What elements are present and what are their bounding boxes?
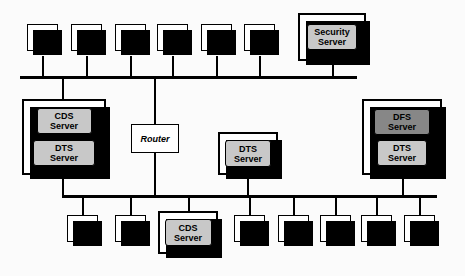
dts-server-label-line1: DTS: [55, 143, 73, 153]
cds-server-label-line1: CDS: [178, 223, 197, 233]
workstation-label: WS: [209, 33, 224, 43]
cds-server-label-line2: Server: [174, 233, 202, 243]
workstation-label: WS: [252, 33, 267, 43]
workstation-top-5[interactable]: WS: [201, 24, 232, 51]
dts-server-label-line2: Server: [234, 154, 262, 164]
drop-bottom-ws-5: [335, 197, 337, 215]
drop-top-ws-5: [216, 56, 218, 77]
workstation-label: WS: [369, 224, 384, 234]
workstation-bottom-7[interactable]: WS: [404, 215, 435, 242]
dfs-server-label-line2: Server: [388, 122, 416, 132]
cds-server-chassis-bottom[interactable]: CDS Server: [158, 211, 218, 254]
dts-server-chassis-middle[interactable]: DTS Server: [218, 132, 278, 175]
dfs-dts-server-chassis[interactable]: DFS Server DTS Server: [362, 99, 442, 175]
workstation-top-2[interactable]: WS: [71, 24, 102, 51]
workstation-top-4[interactable]: WS: [157, 24, 188, 51]
security-server-plate: Security Server: [307, 24, 357, 50]
dfs-server-label-line1: DFS: [393, 112, 411, 122]
cds-server-plate: CDS Server: [165, 219, 212, 246]
drop-bottom-ws-7: [419, 197, 421, 215]
dts-server-label-line1: DTS: [393, 143, 411, 153]
workstation-label: WS: [79, 33, 94, 43]
bottom-bus-line: [62, 195, 437, 198]
workstation-top-6[interactable]: WS: [244, 24, 275, 51]
drop-bottom-ws-1: [82, 197, 84, 215]
workstation-label: WS: [242, 224, 257, 234]
security-server-label-line2: Server: [318, 37, 346, 47]
workstation-label: WS: [123, 224, 138, 234]
drop-top-ws-2: [86, 56, 88, 77]
drop-top-ws-6: [259, 56, 261, 77]
workstation-bottom-1[interactable]: WS: [67, 215, 98, 242]
dts-server-plate: DTS Server: [225, 140, 271, 167]
security-server-chassis[interactable]: Security Server: [298, 13, 366, 61]
drop-bottom-ws-3: [249, 197, 251, 215]
workstation-top-3[interactable]: WS: [115, 24, 146, 51]
dfs-server-plate: DFS Server: [374, 109, 430, 135]
workstation-top-1[interactable]: WS: [27, 24, 58, 51]
workstation-label: WS: [286, 224, 301, 234]
network-diagram: WS WS WS WS WS WS Security Server CDS Se…: [0, 0, 465, 276]
drop-bottom-ws-6: [376, 197, 378, 215]
security-server-label-line1: Security: [314, 27, 350, 37]
workstation-bottom-3[interactable]: WS: [234, 215, 265, 242]
cds-server-label-line2: Server: [50, 121, 78, 131]
dts-server-plate: DTS Server: [377, 140, 427, 166]
drop-top-ws-3: [130, 56, 132, 77]
workstation-bottom-5[interactable]: WS: [320, 215, 351, 242]
dts-server-label-line2: Server: [388, 153, 416, 163]
router-label: Router: [141, 134, 170, 144]
workstation-label: WS: [123, 33, 138, 43]
drop-bottom-cds: [188, 197, 190, 211]
workstation-bottom-2[interactable]: WS: [115, 215, 146, 242]
drop-bottom-ws-2: [130, 197, 132, 215]
dts-server-plate: DTS Server: [33, 140, 95, 166]
drop-top-ws-1: [42, 56, 44, 77]
top-bus-line: [20, 76, 357, 79]
dts-server-label-line2: Server: [50, 153, 78, 163]
cds-server-plate: CDS Server: [37, 108, 92, 134]
workstation-label: WS: [35, 33, 50, 43]
drop-top-ws-4: [172, 56, 174, 77]
cds-dts-server-chassis[interactable]: CDS Server DTS Server: [22, 99, 106, 175]
drop-bottom-ws-4: [293, 197, 295, 215]
cds-server-label-line1: CDS: [54, 111, 73, 121]
workstation-label: WS: [165, 33, 180, 43]
router-box[interactable]: Router: [131, 124, 179, 153]
workstation-label: WS: [75, 224, 90, 234]
workstation-bottom-4[interactable]: WS: [278, 215, 309, 242]
workstation-label: WS: [328, 224, 343, 234]
workstation-label: WS: [412, 224, 427, 234]
dts-server-label-line1: DTS: [239, 144, 257, 154]
workstation-bottom-6[interactable]: WS: [361, 215, 392, 242]
